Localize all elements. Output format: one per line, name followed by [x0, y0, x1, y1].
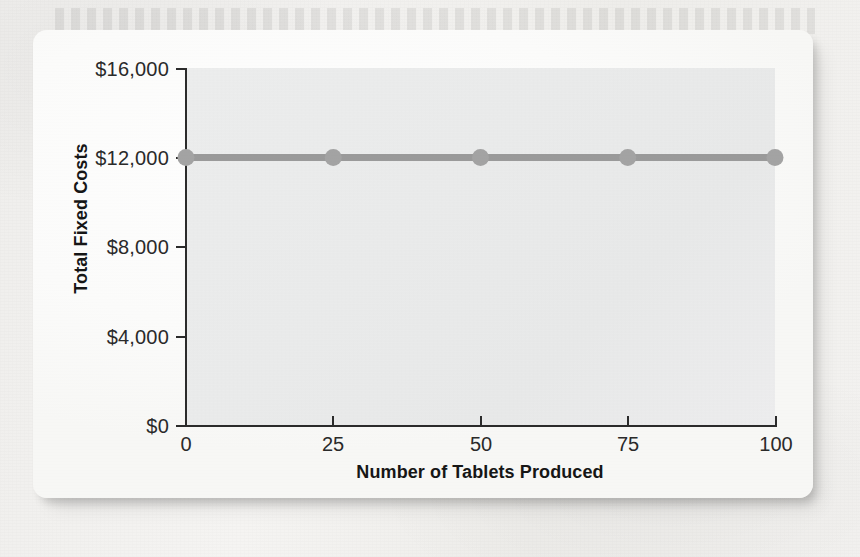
series-data-point: [767, 149, 784, 166]
series-data-point: [325, 149, 342, 166]
data-series-layer: [33, 30, 813, 498]
series-data-point: [178, 149, 195, 166]
line-chart: $16,000 $12,000 $8,000 $4,000 $0 0 25 50…: [33, 30, 813, 498]
series-total-fixed-costs: [178, 149, 784, 166]
figure-card: $16,000 $12,000 $8,000 $4,000 $0 0 25 50…: [33, 30, 813, 498]
series-data-point: [619, 149, 636, 166]
series-data-point: [472, 149, 489, 166]
